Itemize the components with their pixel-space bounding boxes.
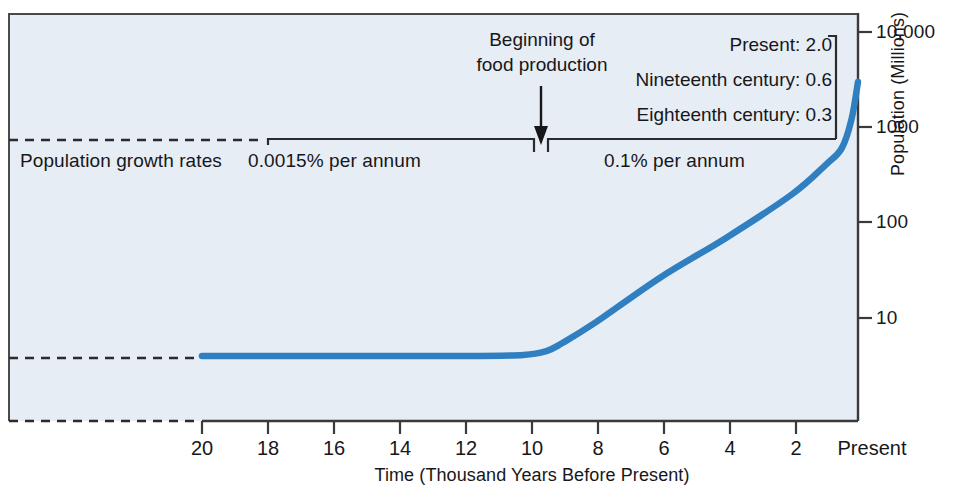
population-growth-figure: Beginning of food production Present: 2.… xyxy=(0,0,968,491)
growth-rate-postagriculture: 0.1% per annum xyxy=(604,150,745,172)
rate-nineteenth-century: Nineteenth century: 0.6 xyxy=(556,62,832,97)
x-tick-label-20: 20 xyxy=(191,437,213,460)
y-axis-title: Population (Millions) xyxy=(888,0,909,176)
x-tick-label-16: 16 xyxy=(323,437,345,460)
x-tick-label-present: Present xyxy=(838,437,907,460)
x-tick-label-8: 8 xyxy=(592,437,603,460)
x-axis-title: Time (Thousand Years Before Present) xyxy=(202,465,862,486)
x-axis-ticks xyxy=(202,421,796,434)
x-tick-label-4: 4 xyxy=(724,437,735,460)
rate-eighteenth-century: Eighteenth century: 0.3 xyxy=(556,97,832,132)
y-tick-label-100: 100 xyxy=(876,211,908,233)
x-tick-label-12: 12 xyxy=(455,437,477,460)
growth-rate-preagriculture: 0.0015% per annum xyxy=(248,150,421,172)
x-tick-label-18: 18 xyxy=(257,437,279,460)
x-tick-label-2: 2 xyxy=(790,437,801,460)
x-tick-label-6: 6 xyxy=(658,437,669,460)
x-tick-label-14: 14 xyxy=(389,437,411,460)
x-tick-label-10: 10 xyxy=(521,437,543,460)
y-tick-label-10: 10 xyxy=(876,307,898,329)
growth-rates-label: Population growth rates xyxy=(20,150,222,172)
rate-present: Present: 2.0 xyxy=(556,27,832,62)
recent-growth-rates: Present: 2.0 Nineteenth century: 0.6 Eig… xyxy=(556,27,832,132)
